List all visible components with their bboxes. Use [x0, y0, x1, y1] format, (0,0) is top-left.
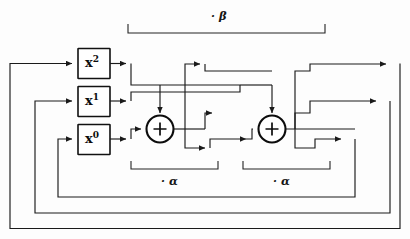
bracket-beta	[128, 24, 325, 33]
power-box-x2-label: x2	[85, 54, 99, 70]
power-box-x1-label: x1	[85, 92, 99, 108]
beta-label: · β	[211, 9, 227, 23]
power-box-x2-exponent: 2	[93, 54, 99, 64]
wire-x2-out	[110, 64, 240, 86]
wire-adder2-out	[286, 64, 387, 148]
power-box-x1-exponent: 1	[93, 92, 99, 102]
wire-adder2-left-in	[246, 129, 253, 139]
diagram-svg	[0, 0, 410, 239]
bracket-alpha-1	[131, 161, 218, 169]
wire-adder1-out	[174, 64, 273, 148]
power-box-x0-label: x0	[85, 130, 99, 146]
alpha-right-label: · α	[273, 174, 290, 188]
wire-x0-out	[110, 129, 141, 139]
feedback-loop-outer	[10, 64, 400, 229]
power-box-x0-exponent: 0	[93, 130, 99, 140]
wire-x1-out	[110, 92, 205, 101]
wire-bus-mid	[205, 85, 272, 92]
bracket-alpha-2	[243, 161, 330, 169]
alpha-left-label: · α	[161, 174, 178, 188]
diagram-canvas: x2 x1 x0 · β · α · α	[0, 0, 410, 239]
feedback-loop-middle	[35, 101, 390, 213]
